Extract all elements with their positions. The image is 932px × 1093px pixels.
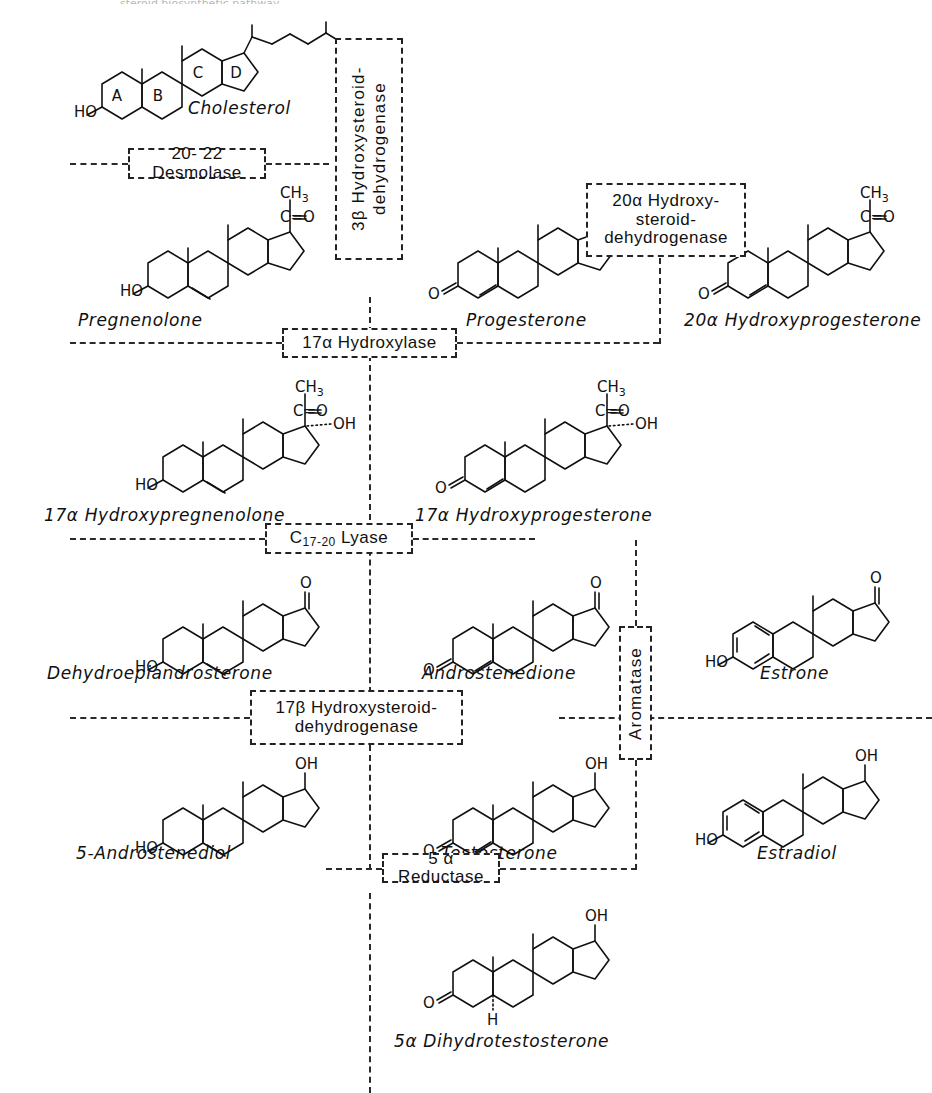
enzyme-label-aromatase: Aromatase bbox=[625, 647, 646, 740]
rail-reductase-left bbox=[326, 868, 382, 870]
atom-label-methyl: CH3 bbox=[295, 378, 324, 399]
compound-name-androstenedione: Androstenedione bbox=[422, 663, 576, 683]
compound-name-estrone: Estrone bbox=[760, 663, 829, 683]
rail-lyase-left bbox=[70, 538, 265, 540]
enzyme-box-reductase-5a[interactable]: 5 α Reductase bbox=[382, 853, 500, 883]
rail-reductase-right bbox=[500, 868, 637, 870]
atom-label-oh: OH bbox=[333, 415, 356, 433]
rail-desmolase-left bbox=[70, 163, 128, 165]
rail-center-mid bbox=[369, 540, 371, 693]
atom-label-ketone: O bbox=[435, 479, 447, 497]
compound-name-5-androstenediol: 5-Androstenediol bbox=[76, 843, 231, 863]
atom-label-ketone: O bbox=[423, 994, 435, 1012]
steroidogenesis-pathway-figure: steroid biosynthetic pathway 20- 22 Desm… bbox=[0, 0, 932, 1093]
compound-name-dht: 5α Dihydrotestosterone bbox=[394, 1031, 609, 1051]
enzyme-label-desmolase: 20- 22 Desmolase bbox=[138, 145, 256, 182]
compound-name-progesterone: Progesterone bbox=[466, 310, 587, 330]
enzyme-label-lyase: C17-20 Lyase bbox=[290, 529, 388, 549]
enzyme-box-hsd17b[interactable]: 17β Hydroxysteroid- dehydrogenase bbox=[250, 690, 463, 745]
atom-label-ketone: O bbox=[870, 569, 882, 587]
ring-letter-d: D bbox=[230, 64, 242, 82]
rail-hsd17b-right bbox=[559, 717, 932, 719]
atom-label-carbonyl: C=O bbox=[280, 208, 315, 226]
atom-label-methyl: CH3 bbox=[860, 184, 889, 205]
rail-desmolase-right bbox=[266, 163, 329, 165]
molecule-dht: O OH H bbox=[425, 905, 615, 1030]
atom-label-ho: HO bbox=[705, 653, 728, 671]
enzyme-label-reductase-5a: 5 α Reductase bbox=[392, 850, 490, 887]
rail-aromatase-bottom bbox=[635, 760, 637, 870]
atom-label-ketone: O bbox=[300, 574, 312, 592]
atom-label-carbonyl: C=O bbox=[293, 402, 328, 420]
molecule-17a-hydroxyprogesterone: O CH3 C=O OH bbox=[437, 372, 647, 500]
compound-name-17a-hydroxypregnenolone: 17α Hydroxypregnenolone bbox=[44, 505, 285, 525]
enzyme-box-hsd3b[interactable]: 3β Hydroxysteroid- dehydrogenase bbox=[335, 38, 403, 260]
atom-label-carbonyl: C=O bbox=[860, 208, 895, 226]
atom-label-ketone: O bbox=[698, 285, 710, 303]
atom-label-oh: OH bbox=[295, 755, 318, 773]
compound-name-estradiol: Estradiol bbox=[757, 843, 837, 863]
lyase-subscript: 17-20 bbox=[303, 535, 336, 549]
atom-label-oh: OH bbox=[635, 415, 658, 433]
enzyme-label-hydroxylase-17a: 17α Hydroxylase bbox=[302, 334, 437, 352]
enzyme-box-aromatase[interactable]: Aromatase bbox=[619, 626, 652, 760]
molecule-17a-hydroxypregnenolone: HO CH3 C=O OH bbox=[135, 372, 345, 500]
atom-label-ho: HO bbox=[120, 282, 143, 300]
atom-label-ketone-17: O bbox=[590, 574, 602, 592]
enzyme-label-hsd17b: 17β Hydroxysteroid- dehydrogenase bbox=[276, 699, 438, 736]
atom-label-ho: HO bbox=[135, 476, 158, 494]
rail-lyase-right bbox=[413, 538, 535, 540]
atom-label-ketone: O bbox=[428, 285, 440, 303]
compound-name-17a-hydroxyprogesterone: 17α Hydroxyprogesterone bbox=[415, 505, 652, 525]
molecule-cholesterol: HO A B C D bbox=[74, 22, 364, 140]
enzyme-box-lyase[interactable]: C17-20 Lyase bbox=[265, 523, 413, 554]
atom-label-methyl: CH3 bbox=[597, 378, 626, 399]
enzyme-box-hydroxylase-17a[interactable]: 17α Hydroxylase bbox=[282, 328, 457, 358]
atom-label-oh: OH bbox=[585, 755, 608, 773]
enzyme-box-hsd20a[interactable]: 20α Hydroxy- steroid- dehydrogenase bbox=[586, 183, 746, 257]
ring-letter-a: A bbox=[112, 87, 123, 105]
compound-name-cholesterol: Cholesterol bbox=[188, 98, 291, 118]
enzyme-label-hsd20a: 20α Hydroxy- steroid- dehydrogenase bbox=[604, 192, 728, 247]
atom-label-ho: HO bbox=[74, 103, 97, 121]
atom-label-oh: OH bbox=[585, 907, 608, 925]
rail-hsd17b-left bbox=[70, 717, 250, 719]
atom-label-hydrogen: H bbox=[487, 1011, 498, 1029]
molecule-estradiol: HO OH bbox=[695, 745, 885, 855]
atom-label-methyl: CH3 bbox=[280, 184, 309, 205]
lyase-prefix: C bbox=[290, 528, 303, 547]
rail-hsd20a-down bbox=[659, 258, 661, 344]
lyase-suffix: Lyase bbox=[336, 528, 388, 547]
enzyme-label-hsd3b: 3β Hydroxysteroid- dehydrogenase bbox=[348, 67, 391, 232]
compound-name-dhea: Dehydroepiandrosterone bbox=[47, 663, 273, 683]
rail-hydroxylase-left bbox=[70, 342, 282, 344]
rail-hydroxylase-right bbox=[457, 342, 659, 344]
rail-aromatase-top bbox=[635, 540, 637, 626]
rail-bottom-tail bbox=[369, 893, 371, 1093]
cropped-title-text: steroid biosynthetic pathway bbox=[120, 0, 280, 4]
rail-center-upper bbox=[369, 345, 371, 520]
ring-letter-b: B bbox=[153, 87, 163, 105]
atom-label-oh: OH bbox=[855, 747, 878, 765]
rail-center-lower bbox=[369, 745, 371, 870]
compound-name-pregnenolone: Pregnenolone bbox=[78, 310, 202, 330]
molecule-pregnenolone: HO CH3 C=O bbox=[120, 178, 310, 306]
atom-label-carbonyl: C=O bbox=[595, 402, 630, 420]
atom-label-ho: HO bbox=[695, 831, 718, 849]
compound-name-20a-hydroxyprogesterone: 20α Hydroxyprogesterone bbox=[684, 310, 921, 330]
ring-letter-c: C bbox=[193, 64, 203, 82]
enzyme-box-desmolase[interactable]: 20- 22 Desmolase bbox=[128, 148, 266, 179]
